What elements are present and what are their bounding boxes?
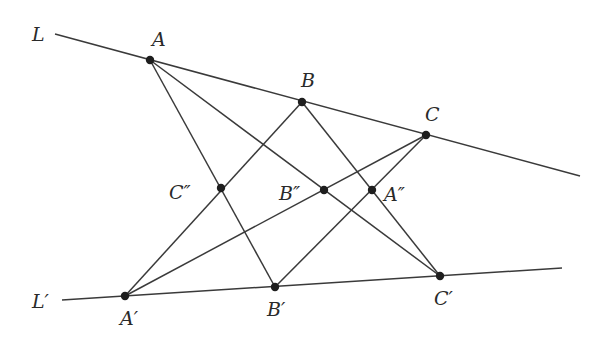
pappus-diagram: LL′ABCA″B″C″A′B′C′ <box>0 0 609 340</box>
point-b <box>298 98 306 106</box>
line-label-l: L <box>31 23 45 45</box>
line-lp <box>62 268 562 300</box>
point-c2 <box>217 184 225 192</box>
labels: LL′ABCA″B″C″A′B′C′ <box>31 23 454 329</box>
point-label-a2: A″ <box>382 183 405 205</box>
segment-c-ap <box>125 135 426 296</box>
point-label-b: B <box>300 69 315 91</box>
point-label-b2: B″ <box>278 182 300 204</box>
point-label-bp: B′ <box>266 298 286 320</box>
point-ap <box>121 292 129 300</box>
point-label-c: C <box>425 103 440 125</box>
point-label-cp: C′ <box>434 287 454 309</box>
point-label-ap: A′ <box>118 307 139 329</box>
point-a2 <box>368 186 376 194</box>
point-a <box>146 56 154 64</box>
segment-a-cp <box>150 60 440 276</box>
segment-a-bp <box>150 60 275 287</box>
point-label-c2: C″ <box>169 181 191 203</box>
point-c <box>422 131 430 139</box>
base-lines <box>55 34 580 300</box>
segment-b-ap <box>125 102 302 296</box>
point-label-a: A <box>150 28 166 50</box>
line-label-lp: L′ <box>31 290 50 312</box>
point-bp <box>271 283 279 291</box>
segment-c-bp <box>275 135 426 287</box>
point-b2 <box>320 186 328 194</box>
points <box>121 56 444 300</box>
point-cp <box>436 272 444 280</box>
line-l <box>55 34 580 176</box>
